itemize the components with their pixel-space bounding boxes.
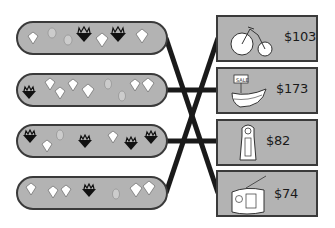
item-box-clock[interactable]: $82 bbox=[216, 119, 318, 166]
gem-row-4[interactable] bbox=[16, 176, 168, 210]
sale-sign-text: SALE bbox=[236, 77, 249, 83]
crown-black-icon bbox=[23, 130, 37, 143]
diamond-icon bbox=[48, 186, 58, 198]
ruby-icon bbox=[105, 79, 112, 89]
grandfather-clock-icon bbox=[234, 122, 264, 166]
crown-black-icon bbox=[76, 27, 92, 42]
ruby-icon bbox=[113, 189, 120, 199]
diamond-icon bbox=[130, 183, 142, 197]
bicycle-icon bbox=[228, 21, 288, 61]
diamond-icon bbox=[130, 79, 140, 91]
crown-black-icon bbox=[22, 86, 36, 99]
diamond-icon bbox=[96, 33, 108, 47]
crown-black-icon bbox=[144, 131, 158, 144]
diamond-icon bbox=[42, 140, 52, 152]
gem-row-3-gems bbox=[18, 126, 166, 156]
diamond-icon bbox=[26, 183, 36, 195]
diamond-icon bbox=[61, 185, 71, 197]
gem-row-1-gems bbox=[18, 23, 166, 53]
crown-black-icon bbox=[82, 184, 96, 197]
diamond-icon bbox=[45, 78, 55, 90]
price-boat: $173 bbox=[276, 81, 308, 96]
diamond-icon bbox=[142, 78, 154, 92]
ruby-icon bbox=[48, 28, 56, 38]
ruby-icon bbox=[57, 130, 64, 140]
gem-row-2-gems bbox=[18, 75, 166, 105]
gem-row-4-gems bbox=[18, 178, 166, 208]
item-box-boat[interactable]: SALE $173 bbox=[216, 67, 318, 114]
diamond-icon bbox=[82, 84, 94, 98]
diamond-icon bbox=[68, 79, 78, 91]
diamond-icon bbox=[136, 29, 148, 43]
crown-black-icon bbox=[124, 137, 138, 150]
price-clock: $82 bbox=[266, 133, 290, 148]
diamond-icon bbox=[55, 87, 65, 99]
crown-black-icon bbox=[110, 27, 126, 42]
diamond-icon bbox=[143, 181, 155, 195]
ruby-icon bbox=[64, 35, 72, 45]
gem-row-1[interactable] bbox=[16, 21, 168, 55]
diamond-icon bbox=[28, 32, 38, 44]
gem-row-2[interactable] bbox=[16, 73, 168, 107]
gem-row-3[interactable] bbox=[16, 124, 168, 158]
crown-black-icon bbox=[78, 135, 92, 148]
item-box-bicycle[interactable]: $103 bbox=[216, 15, 318, 62]
price-radio: $74 bbox=[274, 186, 298, 201]
ruby-icon bbox=[119, 91, 126, 101]
radio-icon bbox=[226, 174, 276, 218]
price-bicycle: $103 bbox=[284, 29, 316, 44]
item-box-radio[interactable]: $74 bbox=[216, 170, 318, 217]
diamond-icon bbox=[108, 131, 118, 143]
